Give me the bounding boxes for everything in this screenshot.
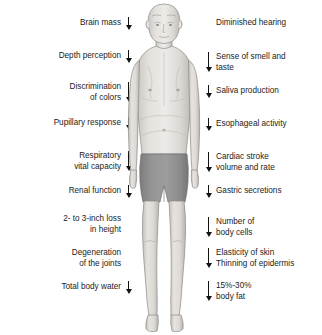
left-label-text: Brain mass bbox=[80, 18, 121, 28]
right-label-text: Esophageal activity bbox=[216, 119, 287, 129]
left-label-text: Discrimination of colors bbox=[70, 82, 121, 102]
left-label-text: Total body water bbox=[61, 282, 121, 292]
right-label-row: Gastric secretions bbox=[205, 185, 282, 198]
right-label-row: 15%-30% body fat bbox=[205, 281, 252, 302]
left-label-text: Renal function bbox=[69, 186, 121, 196]
left-label-text: Respiratory vital capacity bbox=[74, 151, 121, 171]
right-label-text: Saliva production bbox=[216, 86, 279, 96]
aging-changes-diagram: Brain massDepth perceptionDiscrimination… bbox=[0, 0, 322, 335]
right-label-row: Esophageal activity bbox=[205, 118, 287, 131]
left-label-text: Degeneration of the joints bbox=[72, 248, 121, 268]
right-label-text: Diminished hearing bbox=[216, 18, 286, 28]
right-label-text: Gastric secretions bbox=[216, 186, 282, 196]
left-label-text: Pupillary response bbox=[54, 118, 121, 128]
left-label-text: Depth perception bbox=[59, 51, 121, 61]
left-label-text: 2- to 3-inch loss in height bbox=[63, 214, 121, 234]
right-label-text: Elasticity of skin Thinning of epidermis bbox=[216, 248, 294, 268]
right-label-text: Number of body cells bbox=[216, 217, 254, 237]
right-label-row: Sense of smell and taste bbox=[205, 52, 286, 73]
right-label-row: Number of body cells bbox=[205, 217, 254, 238]
right-label-text: Cardiac stroke volume and rate bbox=[216, 152, 275, 172]
right-label-row: Elasticity of skin Thinning of epidermis bbox=[205, 248, 294, 269]
right-label-row: Cardiac stroke volume and rate bbox=[205, 152, 275, 173]
elderly-man-illustration bbox=[118, 2, 210, 333]
right-label-row: Saliva production bbox=[205, 85, 279, 98]
right-label-row: Diminished hearing bbox=[205, 17, 286, 30]
right-label-text: 15%-30% body fat bbox=[216, 281, 252, 301]
right-label-text: Sense of smell and taste bbox=[216, 52, 286, 72]
